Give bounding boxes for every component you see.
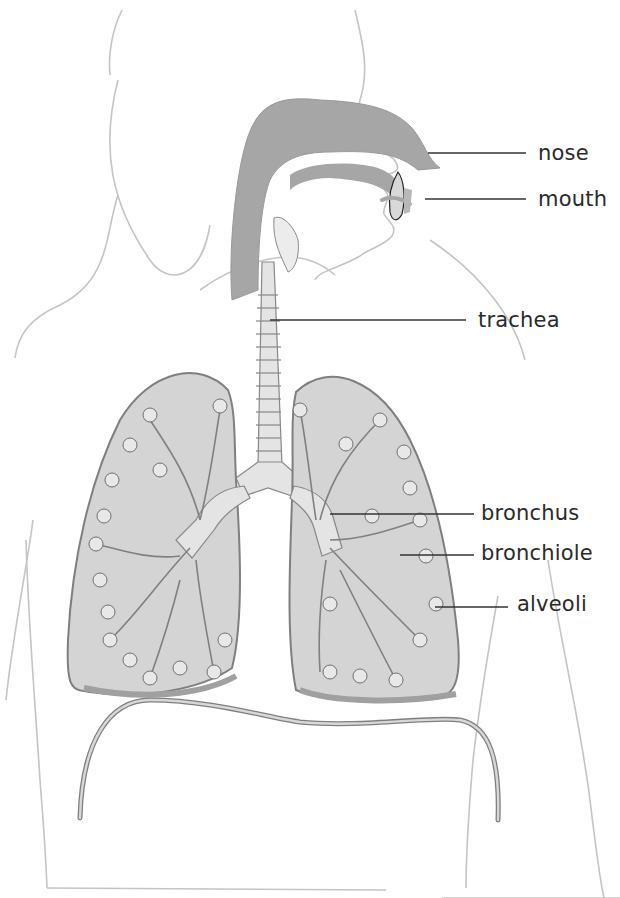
diaphragm — [80, 700, 498, 820]
label-trachea: trachea — [478, 310, 560, 331]
anatomy-illustration — [0, 0, 620, 898]
label-bronchiole: bronchiole — [481, 543, 593, 564]
label-nose: nose — [538, 143, 589, 164]
trachea — [236, 262, 300, 496]
respiratory-system-diagram: nose mouth trachea bronchus bronchiole a… — [0, 0, 620, 898]
label-bronchus: bronchus — [481, 503, 579, 524]
label-mouth: mouth — [538, 189, 607, 210]
label-alveoli: alveoli — [517, 594, 587, 615]
